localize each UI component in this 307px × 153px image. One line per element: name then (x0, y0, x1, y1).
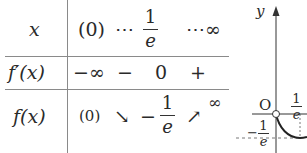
x-mark-denominator: e (293, 108, 301, 121)
y-mark-sign: − (247, 126, 258, 139)
y-axis-label: y (256, 4, 264, 19)
y-mark-numerator: 1 (259, 119, 267, 132)
origin-open-circle-icon (273, 111, 280, 118)
y-axis-arrow-icon (273, 6, 280, 16)
y-mark-value: 1 e (258, 119, 269, 148)
x-mark-value: 1 e (291, 92, 302, 121)
y-mark-denominator: e (260, 135, 268, 148)
x-mark-numerator: 1 (292, 92, 300, 105)
origin-label: O (259, 98, 271, 113)
